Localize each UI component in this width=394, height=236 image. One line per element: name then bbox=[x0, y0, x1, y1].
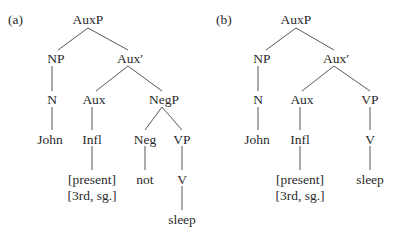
node-aux: Aux bbox=[82, 92, 105, 107]
node-n: N bbox=[253, 92, 263, 107]
node-person-number: [3rd, sg.] bbox=[67, 188, 116, 203]
node-not: not bbox=[136, 172, 153, 187]
node-infl: Infl bbox=[82, 132, 102, 147]
panel-label-b: (b) bbox=[216, 12, 232, 27]
node-negp: NegP bbox=[149, 92, 179, 107]
node-v: V bbox=[365, 132, 375, 147]
node-vp: VP bbox=[361, 92, 378, 107]
node-present: [present] bbox=[68, 172, 116, 187]
tree-b-edges bbox=[258, 28, 370, 170]
tree-edges bbox=[0, 0, 394, 236]
node-neg: Neg bbox=[134, 132, 157, 147]
node-john: John bbox=[37, 132, 63, 147]
panel-label-a: (a) bbox=[8, 12, 23, 27]
node-sleep: sleep bbox=[168, 212, 196, 227]
node-np: NP bbox=[253, 51, 270, 66]
node-john: John bbox=[244, 132, 270, 147]
node-auxp: AuxP bbox=[73, 12, 104, 27]
node-np: NP bbox=[47, 51, 64, 66]
node-v: V bbox=[177, 172, 187, 187]
node-auxp: AuxP bbox=[281, 12, 312, 27]
node-aux: Aux bbox=[290, 92, 313, 107]
node-n: N bbox=[47, 92, 57, 107]
node-infl: Infl bbox=[290, 132, 310, 147]
node-person-number: [3rd, sg.] bbox=[275, 188, 324, 203]
node-aux-bar: Aux′ bbox=[323, 51, 349, 66]
node-present: [present] bbox=[276, 172, 324, 187]
node-sleep: sleep bbox=[356, 172, 384, 187]
node-aux-bar: Aux′ bbox=[117, 51, 143, 66]
node-vp: VP bbox=[173, 132, 190, 147]
